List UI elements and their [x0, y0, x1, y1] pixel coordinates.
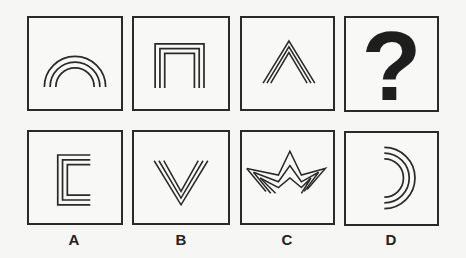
puzzle-cell-3	[240, 16, 335, 111]
puzzle-cell-1	[27, 16, 123, 111]
option-c[interactable]	[240, 130, 335, 225]
triple-chevron-down-icon	[134, 132, 228, 223]
puzzle-cell-unknown: ?	[344, 16, 439, 112]
triple-square-arch-icon	[134, 18, 228, 109]
triple-bracket-left-icon	[29, 132, 121, 223]
triple-chevron-up-icon	[242, 18, 333, 109]
option-b-label: B	[166, 231, 196, 248]
triple-arch-icon	[29, 18, 121, 109]
option-b[interactable]	[132, 130, 230, 225]
option-c-label: C	[272, 231, 302, 248]
option-d[interactable]	[344, 131, 439, 226]
question-mark: ?	[346, 20, 437, 112]
option-a[interactable]	[27, 130, 123, 225]
option-a-label: A	[59, 231, 89, 248]
triple-arc-right-icon	[346, 133, 437, 224]
puzzle-cell-2	[132, 16, 230, 111]
option-d-label: D	[376, 231, 406, 248]
triple-crown-star-icon	[242, 132, 333, 223]
